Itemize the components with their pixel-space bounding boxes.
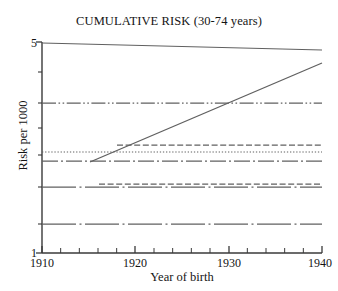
y-axis-major-ticks bbox=[36, 42, 42, 253]
series-upper-solid-declining bbox=[42, 43, 322, 50]
series-rising-solid bbox=[90, 63, 322, 162]
x-axis-major-ticks bbox=[42, 246, 322, 253]
chart-figure: CUMULATIVE RISK (30-74 years) Risk per 1… bbox=[0, 0, 338, 291]
x-axis-minor-ticks bbox=[61, 248, 304, 253]
data-series-group bbox=[42, 43, 322, 224]
plot-area bbox=[0, 0, 338, 291]
